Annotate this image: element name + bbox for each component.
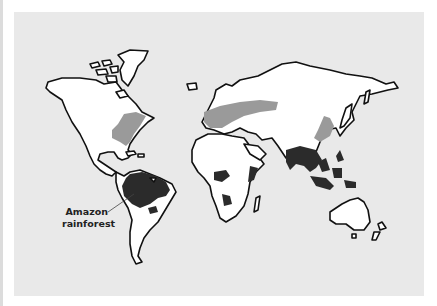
australia	[330, 198, 370, 230]
greenland	[118, 50, 148, 86]
amazon-label-line1: Amazon	[62, 206, 108, 218]
amazon-label-line2: rainforest	[62, 218, 108, 230]
iceland	[187, 83, 197, 90]
arctic-islands	[90, 60, 118, 82]
tasmania	[352, 234, 356, 238]
caribbean-islands	[126, 151, 144, 157]
world-map	[0, 0, 437, 306]
madagascar	[254, 196, 260, 212]
new-zealand	[372, 222, 386, 240]
amazon-label: Amazon rainforest	[62, 206, 108, 230]
